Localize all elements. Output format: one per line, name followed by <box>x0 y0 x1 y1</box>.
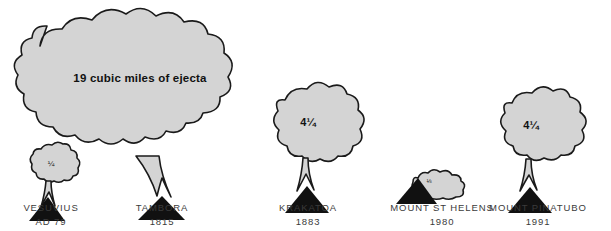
tambora-year: 1815 <box>101 215 223 229</box>
krakatoa-stem <box>297 158 314 191</box>
mount-pinatubo-year: 1991 <box>468 215 608 229</box>
volcanic-ejecta-infographic: ¼ VESUVIUS AD 79 19 cubic miles of eject… <box>0 0 611 231</box>
tambora-stem <box>136 156 171 197</box>
tambora-name: TAMBORA <box>101 201 223 215</box>
krakatoa-name: KRAKATOA <box>247 201 369 215</box>
krakatoa-caption: KRAKATOA 1883 <box>247 201 369 229</box>
volcano-figure-mount-pinatubo: 4¼ MOUNT PINATUBO 1991 <box>478 81 608 231</box>
tambora-cloud <box>14 8 232 144</box>
volcano-figure-krakatoa: 4¼ KRAKATOA 1883 <box>253 76 383 231</box>
mount-pinatubo-stem <box>520 159 537 191</box>
tambora-caption: TAMBORA 1815 <box>101 201 223 229</box>
krakatoa-cloud <box>274 82 364 161</box>
mount-pinatubo-cloud <box>501 87 586 160</box>
mount-pinatubo-caption: MOUNT PINATUBO 1991 <box>468 201 608 229</box>
mount-pinatubo-name: MOUNT PINATUBO <box>468 201 608 215</box>
krakatoa-year: 1883 <box>247 215 369 229</box>
